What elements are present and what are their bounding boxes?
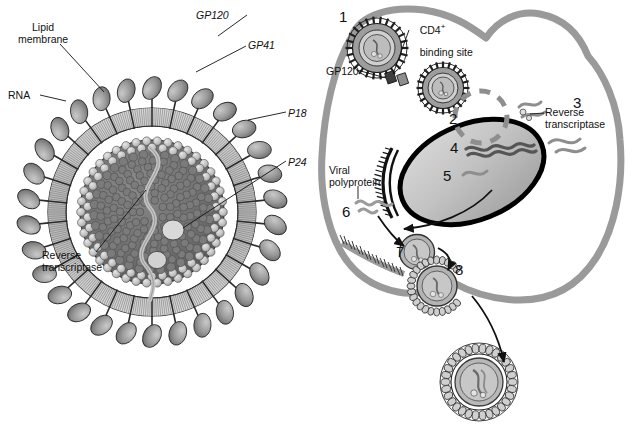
p24-capsid-subunit — [107, 249, 116, 258]
step-number-6: 6 — [342, 204, 350, 219]
label-viral-polyprotein: Viral polyprotein — [329, 165, 380, 188]
mature-released-virion — [440, 343, 518, 421]
gp120-spike — [193, 313, 212, 338]
p24-capsid-subunit — [158, 171, 166, 179]
p24-capsid-subunit — [199, 204, 207, 212]
gp120-spike — [14, 212, 43, 237]
gp120-spike — [65, 299, 94, 325]
p24-capsid-subunit — [95, 232, 104, 241]
step-number-2: 2 — [449, 111, 457, 126]
p24-capsid-subunit — [121, 244, 129, 252]
p24-capsid-subunit — [103, 171, 112, 180]
gp120-spike — [246, 259, 273, 288]
p24-capsid-subunit — [166, 203, 174, 211]
gp120-spike — [255, 236, 284, 265]
gp120-spike — [48, 115, 72, 143]
gp120-spike — [31, 135, 58, 164]
label-rna: RNA — [8, 90, 30, 102]
step-number-5: 5 — [443, 168, 451, 183]
p24-capsid-subunit — [105, 196, 113, 204]
gp120-spike — [87, 311, 117, 339]
gp120-spike — [166, 319, 189, 347]
p24-capsid-subunit — [185, 252, 194, 261]
p24-capsid-subunit — [165, 167, 173, 175]
p24-capsid-subunit — [167, 263, 176, 272]
cd4-text: CD4 — [420, 23, 441, 35]
gp120-spike — [139, 73, 165, 102]
label-gp120: GP120 — [196, 10, 229, 22]
p24-capsid-subunit — [169, 147, 178, 156]
p24-capsid-subunit — [187, 230, 195, 238]
p24-capsid-subunit — [138, 158, 146, 166]
gp120-spike — [14, 185, 44, 213]
step-number-7: 7 — [396, 244, 404, 259]
p24-capsid-subunit — [159, 203, 167, 211]
gp120-spike — [163, 76, 192, 105]
p24-capsid-subunit — [136, 208, 144, 216]
p24-capsid-subunit — [119, 157, 128, 166]
p24-capsid-subunit — [179, 151, 188, 160]
label-p18: P18 — [288, 108, 307, 120]
gp120-spike — [232, 281, 256, 309]
gp120-spike — [210, 99, 239, 125]
gp120-spike — [139, 321, 165, 350]
reverse-transcriptase-enzyme-2 — [148, 251, 167, 268]
hiv-figure: Lipid membrane RNA Reverse transcriptase… — [0, 0, 643, 424]
p24-capsid-subunit — [193, 244, 202, 253]
label-cd4-binding-site: CD4+ binding site — [408, 9, 473, 70]
p24-capsid-subunit — [140, 225, 148, 233]
p24-capsid-subunit — [174, 210, 182, 218]
virion-structure-diagram — [14, 15, 290, 351]
p24-capsid-subunit — [201, 184, 210, 193]
p24-capsid-subunit — [117, 264, 126, 273]
p24-capsid-subunit — [151, 196, 159, 204]
p24-capsid-subunit — [124, 201, 132, 209]
p24-capsid-subunit — [180, 160, 189, 169]
p24-capsid-subunit — [195, 175, 204, 184]
p24-capsid-subunit — [180, 203, 188, 211]
p24-capsid-subunit — [129, 153, 138, 162]
p24-capsid-subunit — [161, 194, 169, 202]
p24-capsid-subunit — [150, 240, 158, 248]
p24-capsid-subunit — [91, 221, 100, 230]
p24-capsid-subunit — [204, 194, 213, 203]
label-lipid-membrane: Lipid membrane — [18, 22, 68, 45]
label-reverse-transcriptase: Reverse transcriptase — [42, 250, 102, 273]
step-number-8: 8 — [455, 262, 463, 277]
gp120-spike — [115, 77, 138, 105]
p24-capsid-subunit — [159, 213, 167, 221]
p24-capsid-subunit — [131, 250, 139, 258]
p24-capsid-subunit — [188, 166, 197, 175]
gp120-spike — [112, 319, 141, 348]
label-gp120-cycle: GP120 — [326, 66, 359, 78]
p24-capsid-subunit — [170, 240, 178, 248]
p24-capsid-subunit — [118, 218, 126, 226]
reverse-transcriptase-enzyme-1 — [162, 220, 184, 240]
p24-capsid-subunit — [115, 256, 124, 265]
gp120-spike — [261, 211, 291, 239]
p24-capsid-subunit — [207, 234, 216, 243]
gp120-spike — [261, 187, 290, 212]
replication-cycle-diagram — [322, 9, 621, 421]
p24-capsid-subunit — [109, 186, 117, 194]
p24-capsid-subunit — [151, 189, 159, 197]
gp120-spike — [188, 85, 218, 113]
gp120-spike — [247, 141, 272, 159]
p24-capsid-subunit — [132, 218, 140, 226]
p24-capsid-subunit — [127, 269, 136, 278]
figure-artwork — [0, 0, 643, 424]
gp120-spike — [257, 163, 284, 184]
step-number-4: 4 — [450, 140, 458, 155]
step-number-3: 3 — [573, 95, 581, 110]
gp120-spike — [20, 159, 49, 188]
p24-capsid-subunit — [97, 213, 105, 221]
binding-site-text: binding site — [420, 46, 473, 58]
p24-capsid-subunit — [89, 182, 98, 191]
step-number-1: 1 — [339, 9, 347, 24]
label-p24: P24 — [288, 157, 307, 169]
cd4-superscript: + — [441, 22, 446, 31]
p24-capsid-subunit — [110, 163, 119, 172]
p24-capsid-subunit — [110, 215, 118, 223]
p24-capsid-subunit — [175, 172, 183, 180]
label-gp41: GP41 — [248, 40, 275, 52]
